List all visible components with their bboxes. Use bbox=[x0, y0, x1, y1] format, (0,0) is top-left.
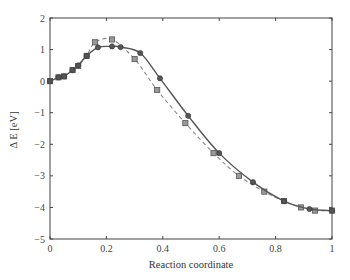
series-line bbox=[50, 38, 332, 210]
x-axis-label: Reaction coordinate bbox=[149, 259, 234, 270]
x-tick-label: 0.8 bbox=[269, 243, 282, 254]
data-point-circle bbox=[250, 180, 255, 185]
data-point-circle bbox=[307, 206, 312, 211]
y-axis-label: Δ E [eV] bbox=[8, 111, 19, 148]
series-layer bbox=[47, 37, 334, 213]
data-point-circle bbox=[281, 199, 286, 204]
x-tick-label: 0.6 bbox=[213, 243, 226, 254]
y-tick-label: −5 bbox=[34, 234, 45, 245]
data-point-square bbox=[132, 56, 137, 61]
y-tick-label: 2 bbox=[40, 13, 45, 24]
data-point-circle bbox=[56, 75, 61, 80]
data-point-square bbox=[236, 173, 241, 178]
y-tick-label: −2 bbox=[34, 139, 45, 150]
x-tick-label: 0.4 bbox=[157, 243, 170, 254]
chart: 00.20.40.60.81−5−4−3−2−1012 Reaction coo… bbox=[0, 0, 350, 280]
y-tick-label: −3 bbox=[34, 170, 45, 181]
data-point-circle bbox=[70, 67, 75, 72]
series-square bbox=[47, 37, 334, 213]
y-tick-label: 1 bbox=[40, 44, 45, 55]
data-point-square bbox=[211, 151, 216, 156]
data-point-circle bbox=[217, 151, 222, 156]
data-point-circle bbox=[109, 44, 114, 49]
data-point-circle bbox=[138, 50, 143, 55]
data-point-circle bbox=[118, 44, 123, 49]
series-circle bbox=[47, 44, 334, 213]
x-tick-label: 0.2 bbox=[100, 243, 113, 254]
x-tick-label: 0 bbox=[48, 243, 53, 254]
data-point-circle bbox=[62, 74, 67, 79]
data-point-square bbox=[109, 37, 114, 42]
data-point-circle bbox=[157, 76, 162, 81]
data-point-circle bbox=[47, 79, 52, 84]
y-tick-label: 0 bbox=[40, 76, 45, 87]
data-point-circle bbox=[329, 208, 334, 213]
data-point-circle bbox=[84, 53, 89, 58]
series-line bbox=[50, 46, 332, 210]
axes: 00.20.40.60.81−5−4−3−2−1012 bbox=[34, 13, 334, 255]
data-point-circle bbox=[76, 63, 81, 68]
data-point-square bbox=[155, 87, 160, 92]
data-point-circle bbox=[95, 45, 100, 50]
y-tick-label: −1 bbox=[34, 107, 45, 118]
data-point-square bbox=[93, 40, 98, 45]
data-point-circle bbox=[186, 113, 191, 118]
y-tick-label: −4 bbox=[34, 202, 45, 213]
x-tick-label: 1 bbox=[330, 243, 335, 254]
data-point-square bbox=[183, 121, 188, 126]
